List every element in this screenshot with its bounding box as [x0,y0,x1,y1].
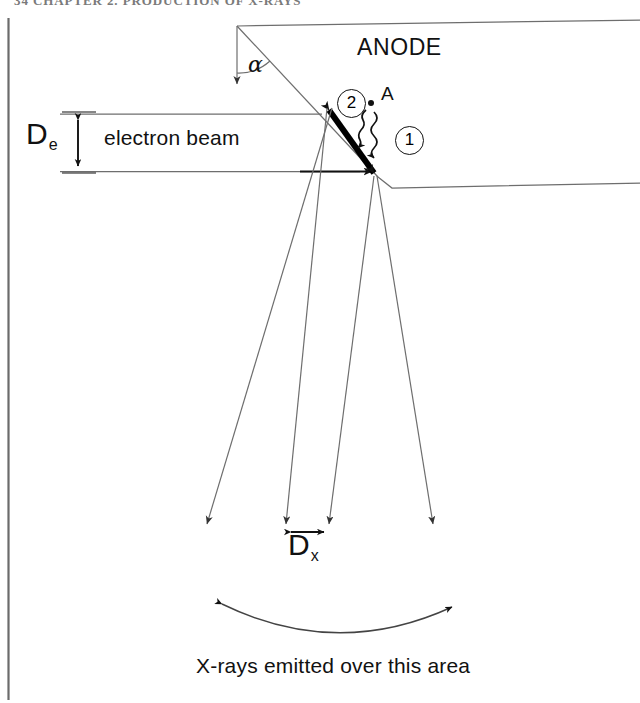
marker-two-circled: 2 [337,89,366,118]
anode-label: ANODE [357,36,442,59]
xray-focal-spot-label: Dx [288,530,318,560]
xray-ray-outer-right [377,176,433,524]
De-subscript: e [49,136,58,153]
anode-diagram-svg [0,0,640,703]
emission-coverage-arc [222,604,452,633]
target-angle-label: α [248,54,263,76]
electron-beam-label: electron beam [104,127,240,148]
photon-path-1-wavy-arrow [371,112,377,158]
interaction-point-A-dot [368,100,374,106]
xray-divergent-rays [207,108,433,524]
De-symbol: D [26,117,48,150]
xray-ray-outer-left [207,108,332,524]
Dx-subscript: x [311,547,319,564]
interaction-point-label: A [381,84,394,103]
focal-track-segment [329,110,374,173]
xray-ray-inner-left [286,108,327,524]
emission-area-caption: X-rays emitted over this area [196,655,470,676]
xray-ray-inner-right [329,176,374,524]
marker-one-circled: 1 [395,126,424,155]
Dx-symbol: D [288,528,310,561]
figure-page: 34 CHAPTER 2. PRODUCTION OF X-RAYS [0,0,640,703]
electron-beam-width-dimension [62,112,96,173]
electron-beam-width-label: De [26,119,57,149]
